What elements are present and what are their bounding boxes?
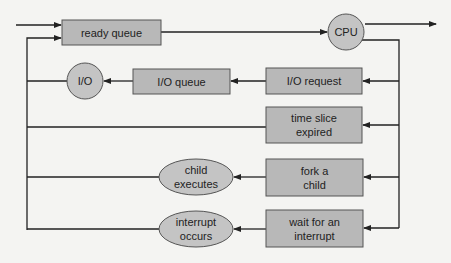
ready-queue-label: ready queue — [81, 27, 142, 39]
time-slice-line1: time slice — [291, 112, 337, 124]
child-executes-line2: executes — [174, 178, 219, 190]
interrupt-occurs-node: interrupt occurs — [159, 211, 233, 247]
wait-interrupt-line2: interrupt — [294, 230, 334, 242]
wait-interrupt-node: wait for an interrupt — [266, 210, 363, 247]
io-node: I/O — [67, 63, 103, 99]
child-executes-node: child executes — [159, 159, 233, 195]
child-executes-line1: child — [185, 164, 208, 176]
interrupt-occurs-line1: interrupt — [176, 216, 216, 228]
io-request-label: I/O request — [287, 75, 341, 87]
cpu-dispatch-bus — [362, 40, 399, 228]
ready-queue-node: ready queue — [62, 20, 161, 45]
time-slice-node: time slice expired — [266, 107, 362, 143]
io-request-node: I/O request — [266, 68, 362, 94]
io-queue-label: I/O queue — [157, 76, 205, 88]
io-queue-node: I/O queue — [133, 69, 230, 94]
wait-interrupt-line1: wait for an — [288, 216, 340, 228]
time-slice-line2: expired — [296, 126, 332, 138]
cpu-label: CPU — [334, 26, 357, 38]
cpu-node: CPU — [328, 14, 364, 50]
interrupt-occurs-line2: occurs — [180, 230, 213, 242]
queueing-diagram: ready queue CPU I/O queue I/O I/O reques… — [0, 0, 451, 263]
fork-child-line2: child — [303, 179, 326, 191]
fork-child-line1: fork a — [301, 165, 329, 177]
io-label: I/O — [78, 75, 93, 87]
return-bus-line — [27, 38, 61, 230]
fork-child-node: fork a child — [266, 159, 363, 196]
